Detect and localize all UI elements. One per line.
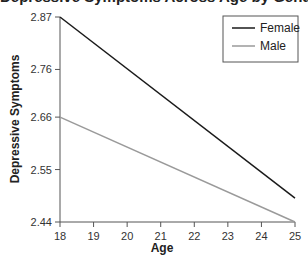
y-tick-label: 2.76 xyxy=(31,63,52,75)
legend: Female Male xyxy=(223,16,300,62)
legend-female-label: Female xyxy=(260,21,300,35)
y-tick-label: 2.44 xyxy=(31,216,52,228)
y-tick-label: 2.55 xyxy=(31,164,52,176)
x-tick-label: 25 xyxy=(289,230,301,242)
y-axis-label: Depressive Symptoms xyxy=(8,54,22,183)
line-chart: 2.442.552.662.762.871819202122232425 Fem… xyxy=(0,0,308,270)
x-tick-label: 23 xyxy=(222,230,234,242)
x-tick-label: 22 xyxy=(188,230,200,242)
x-tick-label: 19 xyxy=(87,230,99,242)
y-tick-label: 2.87 xyxy=(31,11,52,23)
x-tick-label: 24 xyxy=(255,230,267,242)
x-tick-label: 18 xyxy=(54,230,66,242)
y-tick-label: 2.66 xyxy=(31,111,52,123)
series-line-male xyxy=(60,117,295,222)
legend-male-label: Male xyxy=(260,39,286,53)
x-axis-label: Age xyxy=(151,241,174,255)
x-tick-label: 20 xyxy=(121,230,133,242)
